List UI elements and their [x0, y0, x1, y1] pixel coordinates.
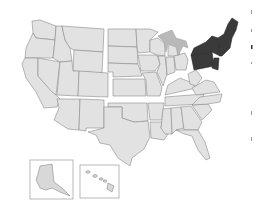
hawaii-frame — [80, 165, 119, 198]
state-nebraska[interactable] — [108, 63, 142, 77]
state-iowa[interactable] — [138, 55, 160, 71]
state-new-england[interactable] — [218, 18, 238, 56]
inset-hawaii — [80, 165, 119, 198]
state-south-dakota[interactable] — [108, 46, 138, 64]
state-mississippi[interactable] — [161, 108, 172, 134]
state-florida[interactable] — [176, 130, 210, 160]
state-wyoming[interactable] — [73, 50, 103, 73]
inset-alaska — [30, 160, 73, 199]
edge-mark — [251, 45, 253, 49]
state-ohio[interactable] — [174, 53, 188, 70]
edge-mark — [251, 10, 252, 14]
state-arizona[interactable] — [54, 99, 80, 130]
state-indiana[interactable] — [166, 57, 175, 75]
us-map — [0, 0, 260, 216]
region-northeast[interactable] — [191, 18, 238, 70]
edge-mark — [251, 29, 252, 32]
edge-mark — [251, 62, 252, 64]
state-arkansas[interactable] — [148, 103, 164, 120]
edge-mark — [251, 111, 252, 115]
state-colorado[interactable] — [78, 71, 108, 97]
region-west[interactable] — [22, 20, 108, 131]
state-kansas[interactable] — [113, 79, 146, 96]
state-new-york[interactable] — [191, 36, 220, 56]
state-new-mexico[interactable] — [79, 99, 104, 131]
edge-mark — [251, 137, 252, 141]
state-north-dakota[interactable] — [108, 29, 137, 47]
